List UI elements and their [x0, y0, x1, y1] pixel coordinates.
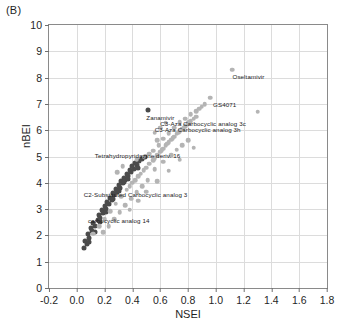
data-point	[140, 184, 145, 189]
point-annotation: Oseltamivir	[232, 73, 264, 80]
point-annotation: C2-Substituted Carbocyclic analog 3	[84, 190, 188, 197]
data-point	[166, 168, 171, 173]
data-point	[170, 136, 175, 141]
y-axis-tick: 7	[36, 98, 49, 110]
gridline-vertical	[216, 25, 217, 288]
point-annotation: carbocyclic analog 14	[88, 217, 150, 224]
data-point	[145, 107, 150, 112]
data-point	[120, 164, 125, 169]
data-point	[138, 172, 143, 177]
data-point	[165, 142, 170, 147]
x-axis-tick: -0.2	[40, 288, 58, 306]
y-axis-label: nBEI	[20, 96, 32, 176]
data-point	[101, 230, 106, 235]
y-axis-tick: 3	[36, 203, 49, 215]
data-point	[197, 106, 202, 111]
data-point	[152, 167, 157, 172]
y-axis-tick: 2	[36, 229, 49, 241]
gridline-vertical	[77, 25, 78, 288]
data-point	[230, 67, 235, 72]
data-point	[113, 202, 118, 207]
data-point	[133, 178, 138, 183]
plot-area: 012345678910-0.20.00.20.40.60.81.01.21.4…	[48, 24, 328, 289]
data-point	[135, 165, 140, 170]
x-axis-tick: 1.0	[208, 288, 223, 306]
point-annotation: C3-Aza Carbocyclic analog 3h	[155, 125, 241, 132]
data-point	[155, 179, 160, 184]
data-point	[186, 138, 191, 143]
data-point	[115, 170, 120, 175]
scatter-chart: 012345678910-0.20.00.20.40.60.81.01.21.4…	[0, 0, 338, 327]
y-axis-tick: 8	[36, 72, 49, 84]
y-axis-tick: 4	[36, 177, 49, 189]
data-point	[127, 184, 132, 189]
gridline-vertical	[299, 25, 300, 288]
x-axis-tick: 0.2	[97, 288, 112, 306]
y-axis-tick: 1	[36, 256, 49, 268]
gridline-vertical	[271, 25, 272, 288]
data-point	[144, 165, 149, 170]
data-point	[188, 112, 193, 117]
data-point	[118, 210, 123, 215]
data-point	[91, 232, 96, 237]
x-axis-tick: 1.6	[292, 288, 307, 306]
y-axis-tick: 5	[36, 151, 49, 163]
data-point	[180, 143, 185, 148]
data-point	[127, 207, 132, 212]
data-point	[97, 224, 102, 229]
x-axis-tick: 1.8	[320, 288, 335, 306]
gridline-vertical	[244, 25, 245, 288]
y-axis-tick: 10	[30, 19, 49, 31]
x-axis-tick: 0.6	[153, 288, 168, 306]
point-annotation: Tetrahydropyridazine deriv. 16	[95, 152, 180, 159]
data-point	[145, 178, 150, 183]
data-point	[202, 102, 207, 107]
data-point	[161, 136, 166, 141]
data-point	[87, 240, 92, 245]
data-point	[157, 143, 162, 148]
x-axis-tick: 0.0	[69, 288, 84, 306]
data-point	[155, 138, 160, 143]
x-axis-tick: 1.4	[264, 288, 279, 306]
y-axis-tick: 9	[36, 45, 49, 57]
data-point	[194, 114, 199, 119]
y-axis-tick: 6	[36, 124, 49, 136]
gridline-vertical	[188, 25, 189, 288]
data-point	[136, 198, 141, 203]
data-point	[255, 109, 260, 114]
x-axis-label: NSEI	[48, 308, 328, 320]
x-axis-tick: 0.8	[181, 288, 196, 306]
point-annotation: GS4071	[213, 100, 236, 107]
data-point	[208, 95, 213, 100]
x-axis-tick: 0.4	[125, 288, 140, 306]
x-axis-tick: 1.2	[236, 288, 251, 306]
data-point	[108, 209, 113, 214]
data-point	[161, 159, 166, 164]
data-point	[106, 224, 111, 229]
data-point	[191, 145, 196, 150]
